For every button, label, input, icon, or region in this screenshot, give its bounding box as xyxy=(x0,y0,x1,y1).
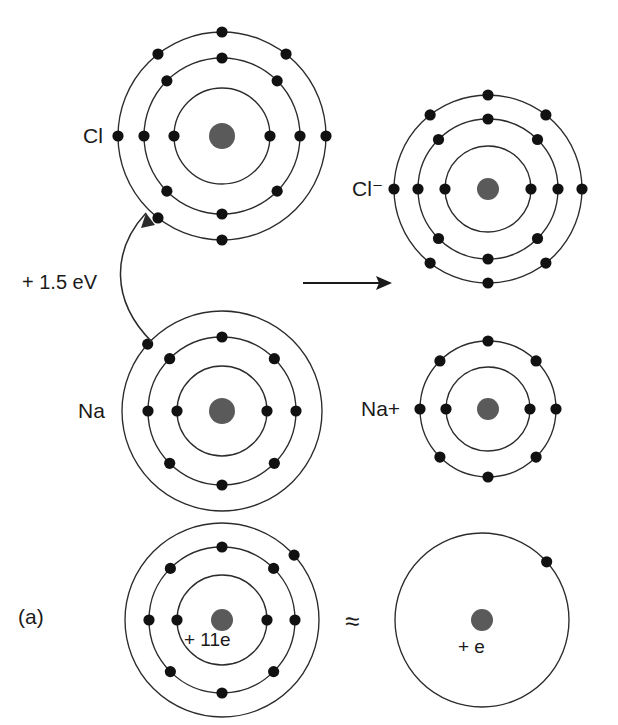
electron-transfer-arrow xyxy=(120,213,155,342)
electron xyxy=(532,233,543,244)
electron xyxy=(425,109,436,120)
electron xyxy=(294,130,305,141)
electron xyxy=(532,134,543,145)
electron xyxy=(440,403,451,414)
reaction-arrow xyxy=(303,276,392,290)
label-sodium-ion: Na+ xyxy=(361,397,400,420)
electron xyxy=(142,338,153,349)
electron xyxy=(552,183,563,194)
electron xyxy=(142,405,153,416)
atom-sodium-ion xyxy=(414,335,561,482)
electron xyxy=(164,353,175,364)
electron xyxy=(541,556,552,567)
nucleus xyxy=(211,609,233,631)
electron xyxy=(482,277,493,288)
electron xyxy=(320,130,331,141)
electron xyxy=(216,541,227,552)
electron xyxy=(216,687,227,698)
label-chlorine: Cl xyxy=(83,124,103,147)
label-approximately-equal: ≈ xyxy=(345,606,359,636)
label-chloride-ion: Cl⁻ xyxy=(352,177,383,200)
electron xyxy=(216,479,227,490)
electron xyxy=(530,451,541,462)
atom-sodium-simplified-model xyxy=(395,533,569,707)
electron xyxy=(272,186,283,197)
electron xyxy=(550,403,561,414)
electron xyxy=(388,183,399,194)
atom-chloride-ion xyxy=(388,89,587,288)
electron xyxy=(216,26,227,37)
electron xyxy=(540,257,551,268)
electron xyxy=(414,403,425,414)
electron xyxy=(138,130,149,141)
electron xyxy=(289,614,300,625)
electron xyxy=(168,130,179,141)
electron xyxy=(216,52,227,63)
electron xyxy=(261,405,272,416)
electron xyxy=(269,353,280,364)
electron xyxy=(280,48,291,59)
electron xyxy=(161,75,172,86)
electron xyxy=(524,403,535,414)
nucleus xyxy=(209,123,235,149)
electron xyxy=(433,233,444,244)
electron xyxy=(112,130,123,141)
electron xyxy=(272,75,283,86)
electron xyxy=(143,614,154,625)
electron xyxy=(268,563,279,574)
electron xyxy=(482,253,493,264)
nucleus xyxy=(471,609,493,631)
electron xyxy=(171,614,182,625)
electron xyxy=(264,130,275,141)
electron xyxy=(530,355,541,366)
electron xyxy=(216,331,227,342)
label-panel: (a) xyxy=(18,605,44,628)
electron xyxy=(165,666,176,677)
electron xyxy=(216,234,227,245)
electron xyxy=(482,471,493,482)
electron-transfer-diagram: Cl Cl⁻ Na Na+ + 1.5 eV (a) ≈ + 11e + e xyxy=(0,0,618,725)
label-sodium: Na xyxy=(78,399,105,422)
electron xyxy=(161,186,172,197)
electron xyxy=(525,183,536,194)
label-nucleus-charge-simplified: + e xyxy=(458,636,485,657)
electron xyxy=(216,208,227,219)
electron xyxy=(412,183,423,194)
electron xyxy=(171,405,182,416)
electron xyxy=(540,109,551,120)
curved-arrow-path xyxy=(120,213,152,342)
electron xyxy=(425,257,436,268)
nucleus xyxy=(477,398,499,420)
electron xyxy=(434,451,445,462)
electron xyxy=(261,614,272,625)
nucleus xyxy=(209,398,235,424)
atom-sodium-full-model xyxy=(125,523,319,717)
electron xyxy=(482,335,493,346)
electron xyxy=(482,113,493,124)
label-energy-input: + 1.5 eV xyxy=(22,271,98,293)
diagram-canvas: Cl Cl⁻ Na Na+ + 1.5 eV (a) ≈ + 11e + e xyxy=(0,0,618,725)
electron xyxy=(576,183,587,194)
electron xyxy=(165,563,176,574)
electron xyxy=(434,355,445,366)
label-nucleus-charge-full: + 11e xyxy=(184,629,231,650)
electron xyxy=(288,549,299,560)
electron xyxy=(433,134,444,145)
electron xyxy=(152,212,163,223)
electron xyxy=(268,666,279,677)
electron xyxy=(164,458,175,469)
nucleus xyxy=(477,178,499,200)
electron xyxy=(290,405,301,416)
electron xyxy=(482,89,493,100)
electron xyxy=(152,48,163,59)
electron xyxy=(269,458,280,469)
electron xyxy=(439,183,450,194)
